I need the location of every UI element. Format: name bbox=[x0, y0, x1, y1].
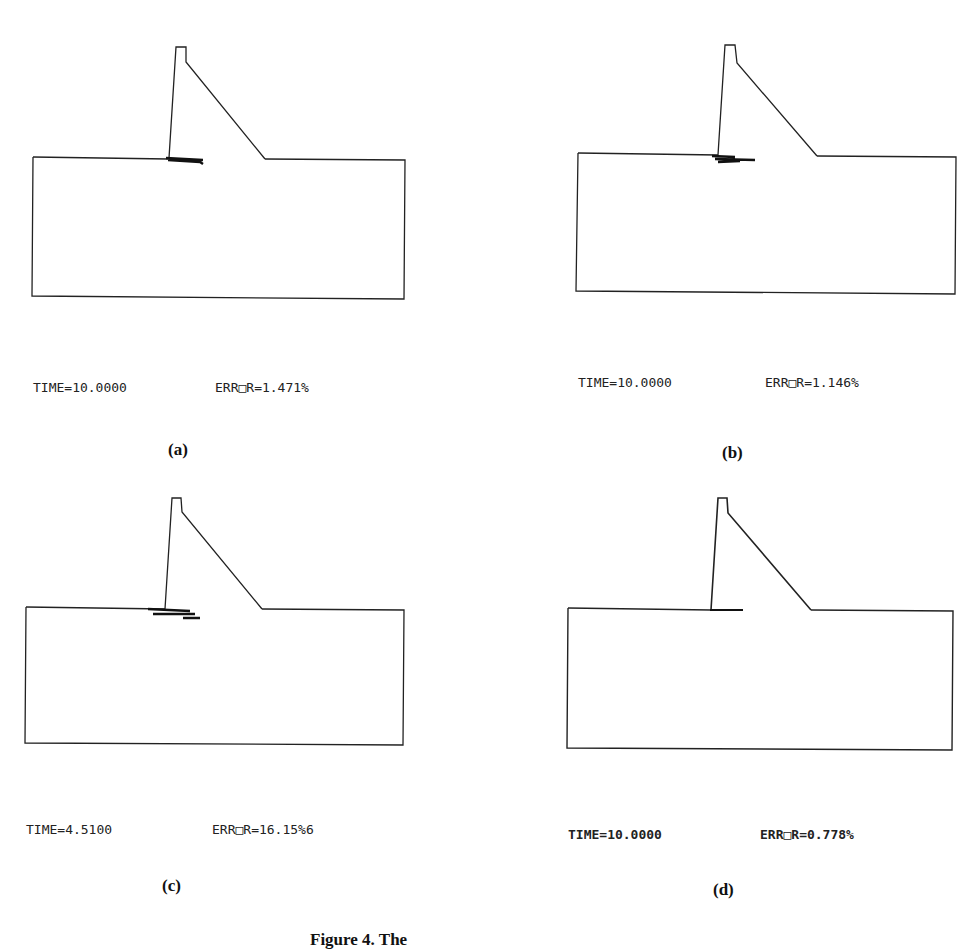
time-readout-c: TIME=4.5100 bbox=[26, 822, 112, 837]
subfigure-label-d: (d) bbox=[713, 880, 734, 900]
error-readout-c: ERR□R=16.15%6 bbox=[212, 822, 314, 837]
figure-caption: Figure 4. The bbox=[310, 930, 407, 950]
dam-diagram-d bbox=[0, 0, 980, 760]
subfigure-label-c: (c) bbox=[162, 876, 181, 896]
error-readout-d: ERR□R=0.778% bbox=[760, 827, 854, 842]
time-readout-d: TIME=10.0000 bbox=[568, 827, 662, 842]
